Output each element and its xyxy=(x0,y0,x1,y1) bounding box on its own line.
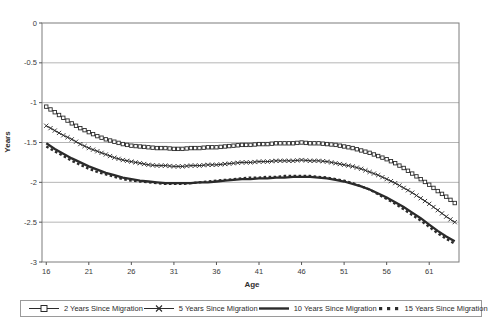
series-marker-square xyxy=(440,192,443,195)
series-marker-square xyxy=(159,146,162,149)
series-marker-square xyxy=(296,141,299,144)
series-marker-square xyxy=(45,105,48,108)
y-tick-label: -2.5 xyxy=(24,218,37,227)
series-marker-square xyxy=(62,116,65,119)
series-marker-square xyxy=(215,146,218,149)
series-marker-square xyxy=(262,142,265,145)
series-marker-square xyxy=(300,141,303,144)
series-marker-square xyxy=(291,142,294,145)
series-marker-square xyxy=(270,142,273,145)
series-marker-square xyxy=(219,145,222,148)
series-marker-x xyxy=(448,217,452,221)
plot-generated: 0-0.5-1-1.5-2-2.5-316212631364146515661 xyxy=(24,19,459,276)
series-marker-x xyxy=(44,124,48,128)
y-tick-label: -1 xyxy=(30,98,37,107)
series-marker-x xyxy=(414,193,418,197)
series-marker-square xyxy=(74,124,77,127)
series-marker-square xyxy=(117,141,120,144)
series-marker-square xyxy=(181,147,184,150)
legend-label-2-years: 2 Years Since Migration xyxy=(64,305,143,313)
series-marker-square xyxy=(428,183,431,186)
series-marker-square xyxy=(415,175,418,178)
x-tick-label: 31 xyxy=(170,267,178,276)
series-marker-square xyxy=(453,201,456,204)
series-marker-square xyxy=(66,119,69,122)
x-tick-label: 16 xyxy=(42,267,50,276)
series-marker-square xyxy=(176,147,179,150)
series-marker-square xyxy=(364,150,367,153)
series-marker-square xyxy=(83,128,86,131)
series-marker-square xyxy=(308,142,311,145)
series-marker-square xyxy=(436,189,439,192)
series-marker-square xyxy=(330,143,333,146)
series-marker-square xyxy=(223,145,226,148)
y-tick-label: -2 xyxy=(30,178,37,187)
series-marker-square xyxy=(130,144,133,147)
x-tick-label: 51 xyxy=(340,267,348,276)
series-marker-square xyxy=(147,146,150,149)
series-marker-square xyxy=(321,142,324,145)
series-marker-x xyxy=(410,191,414,195)
series-marker-square xyxy=(79,126,82,129)
legend-swatch-x-line-icon xyxy=(143,304,175,313)
series-marker-square xyxy=(138,145,141,148)
series-marker-square xyxy=(49,108,52,111)
series-marker-square xyxy=(245,143,248,146)
series-marker-square xyxy=(257,142,260,145)
series-marker-square xyxy=(287,142,290,145)
series-marker-x xyxy=(419,196,423,200)
x-tick-label: 56 xyxy=(382,267,390,276)
series-marker-square xyxy=(91,132,94,135)
series-marker-x xyxy=(402,186,406,190)
series-marker-square xyxy=(274,142,277,145)
series-marker-square xyxy=(113,140,116,143)
series-marker-square xyxy=(155,146,158,149)
series-marker-square xyxy=(313,142,316,145)
series-marker-square xyxy=(168,147,171,150)
series-marker-square xyxy=(389,160,392,163)
series-marker-square xyxy=(351,146,354,149)
series-marker-square xyxy=(96,134,99,137)
y-tick-label: -0.5 xyxy=(24,58,37,67)
series-marker-square xyxy=(359,149,362,152)
series-marker-x xyxy=(74,140,78,144)
series-marker-square xyxy=(236,144,239,147)
x-tick-label: 36 xyxy=(212,267,220,276)
series-marker-square xyxy=(164,146,167,149)
series-marker-x xyxy=(393,181,397,185)
legend-item-10-years: 10 Years Since Migration xyxy=(258,304,377,313)
series-marker-x xyxy=(406,188,410,192)
legend-item-2-years: 2 Years Since Migration xyxy=(28,304,143,313)
chart-svg: 0-0.5-1-1.5-2-2.5-316212631364146515661 … xyxy=(0,0,477,296)
series-marker-square xyxy=(449,198,452,201)
series-marker-square xyxy=(355,148,358,151)
legend-swatch-thick-line-icon xyxy=(258,304,290,313)
y-tick-label: 0 xyxy=(33,19,37,28)
series-marker-square xyxy=(104,138,107,141)
series-line-3 xyxy=(46,143,454,241)
series-marker-square xyxy=(368,151,371,154)
series-marker-square xyxy=(372,153,375,156)
series-marker-square xyxy=(125,143,128,146)
series-marker-square xyxy=(134,144,137,147)
series-marker-square xyxy=(53,111,56,114)
y-tick-label: -1.5 xyxy=(24,138,37,147)
series-marker-x xyxy=(99,151,103,155)
series-marker-x xyxy=(436,208,440,212)
series-marker-x xyxy=(397,183,401,187)
series-marker-x xyxy=(440,211,444,215)
series-marker-square xyxy=(87,130,90,133)
x-tick-label: 21 xyxy=(85,267,93,276)
x-tick-label: 41 xyxy=(255,267,263,276)
legend-label-15-years: 15 Years Since Migration xyxy=(405,305,488,313)
series-marker-square xyxy=(240,143,243,146)
series-marker-x xyxy=(444,214,448,218)
series-marker-square xyxy=(342,145,345,148)
series-marker-square xyxy=(338,144,341,147)
series-marker-square xyxy=(334,143,337,146)
series-marker-square xyxy=(283,142,286,145)
y-axis-title: Years xyxy=(3,131,12,153)
series-marker-square xyxy=(57,113,60,116)
series-marker-square xyxy=(228,144,231,147)
